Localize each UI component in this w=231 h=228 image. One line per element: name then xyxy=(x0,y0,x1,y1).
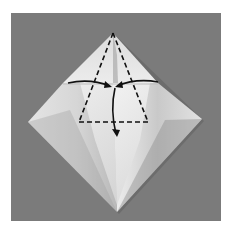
origami-diagram xyxy=(0,0,231,228)
